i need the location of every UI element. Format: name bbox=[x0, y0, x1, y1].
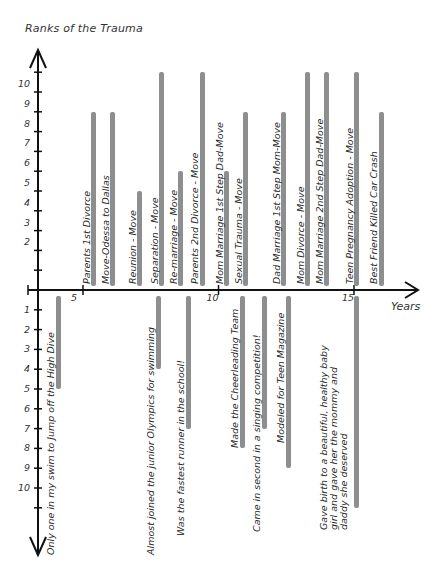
positive-event-label: Gave birth to a beautiful, healthy baby … bbox=[319, 345, 349, 530]
y-tick-label: 4 bbox=[14, 363, 30, 374]
trauma-event-label: Mom Marriage 1st Step Dad-Move bbox=[214, 122, 225, 284]
y-tick-label: 9 bbox=[14, 462, 30, 473]
trauma-timeline-chart: Ranks of the Trauma Years 10987654321234… bbox=[0, 0, 439, 578]
trauma-bar bbox=[379, 112, 384, 286]
positive-event-label: Almost joined the junior Olympics for sw… bbox=[145, 327, 156, 555]
y-tick-label: 2 bbox=[14, 324, 30, 335]
y-tick-label: 1 bbox=[14, 304, 30, 315]
trauma-event-label: Parents 1st Divorce bbox=[81, 191, 92, 284]
positive-event-label: Made the Cheerleading Team bbox=[229, 308, 240, 447]
trauma-bar bbox=[91, 112, 96, 286]
x-axis-label: Years bbox=[391, 300, 420, 313]
y-tick-label: 9 bbox=[14, 98, 30, 109]
axes bbox=[0, 0, 439, 578]
positive-bar bbox=[354, 296, 359, 508]
y-tick-label: 5 bbox=[14, 177, 30, 188]
y-tick-label: 3 bbox=[14, 343, 30, 354]
y-tick-label: 7 bbox=[14, 423, 30, 434]
trauma-bar bbox=[110, 112, 115, 286]
trauma-event-label: Mom Marriage 2nd Step Dad-Move bbox=[314, 119, 325, 284]
trauma-bar bbox=[137, 191, 142, 286]
x-tick-label: 10 bbox=[207, 292, 219, 303]
trauma-event-label: Teen Pregnancy Adoption - Move bbox=[344, 128, 355, 284]
y-tick-label: 8 bbox=[14, 118, 30, 129]
y-tick-label: 8 bbox=[14, 442, 30, 453]
y-tick-label: 7 bbox=[14, 137, 30, 148]
x-tick-label: 15 bbox=[342, 292, 354, 303]
trauma-bar bbox=[200, 72, 205, 286]
trauma-bar bbox=[305, 72, 310, 286]
trauma-event-label: Parents 2nd Divorce - Move bbox=[189, 153, 200, 284]
positive-event-label: Came in second in a singing competition! bbox=[251, 334, 262, 532]
trauma-event-label: Best Friend Killed Car Crash bbox=[368, 151, 379, 284]
trauma-event-label: Dad Marriage 1st Step Mom-Move bbox=[271, 122, 282, 284]
trauma-event-label: Re-marriage - Move bbox=[168, 190, 179, 284]
chart-title: Ranks of the Trauma bbox=[25, 22, 143, 35]
positive-event-label: Modeled for Teen Magazine bbox=[275, 312, 286, 442]
y-tick-label: 5 bbox=[14, 383, 30, 394]
positive-bar bbox=[56, 296, 61, 389]
y-tick-label: 4 bbox=[14, 197, 30, 208]
trauma-event-label: Separation - Move bbox=[149, 197, 160, 284]
y-tick-label: 6 bbox=[14, 157, 30, 168]
trauma-event-label: Move-Odessa to Dallas bbox=[100, 175, 111, 284]
positive-bar bbox=[186, 296, 191, 429]
trauma-bar bbox=[324, 72, 329, 286]
positive-bar bbox=[156, 296, 161, 369]
y-tick-label: 3 bbox=[14, 217, 30, 228]
positive-bar bbox=[286, 296, 291, 468]
positive-bar bbox=[262, 296, 267, 429]
x-tick-label: 5 bbox=[71, 292, 77, 303]
positive-bar bbox=[240, 296, 245, 448]
y-tick-label: 2 bbox=[14, 236, 30, 247]
positive-event-label: Was the fastest runner in the school! bbox=[175, 360, 186, 536]
trauma-event-label: Reunion - Move bbox=[127, 210, 138, 284]
positive-event-label: Only one in my swim to Jump off the High… bbox=[45, 332, 56, 555]
y-tick-label: 10 bbox=[14, 482, 30, 493]
y-tick-label: 6 bbox=[14, 403, 30, 414]
trauma-event-label: Sexual Trauma - Move bbox=[233, 178, 244, 284]
trauma-event-label: Mom Divorce - Move bbox=[295, 186, 306, 284]
y-tick-label: 10 bbox=[14, 78, 30, 89]
